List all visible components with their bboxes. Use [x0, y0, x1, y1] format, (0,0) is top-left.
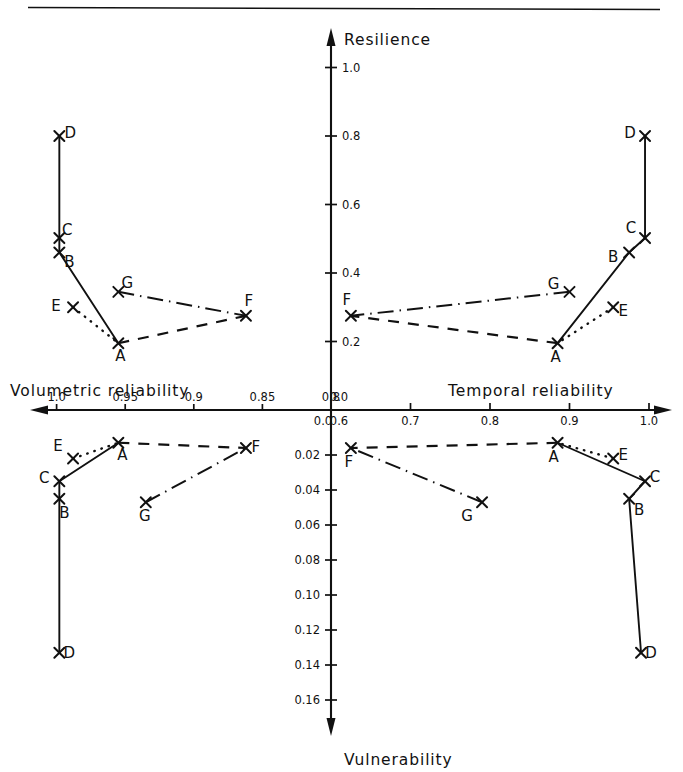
- series-dashed-upper-left: [118, 316, 246, 343]
- point-label-lower-right-D: D: [645, 644, 657, 662]
- series-dashdot-lower-right: [351, 448, 482, 502]
- labels-layer: ResilienceVulnerabilityVolumetric reliab…: [10, 31, 660, 769]
- series-dotted-lower-left: [73, 443, 118, 459]
- point-label-lower-right-C: C: [650, 468, 660, 486]
- y-axis-up-arrow-icon: [327, 28, 336, 46]
- y-ticklabel-resilience-0.4: 0.4: [342, 266, 360, 280]
- point-label-upper-right-E: E: [618, 302, 627, 320]
- datapoint-upper-right-B: [624, 247, 634, 257]
- point-label-lower-left-G: G: [139, 507, 151, 525]
- y-axis-down-arrow-icon: [327, 718, 336, 736]
- top-rule: [28, 8, 660, 10]
- point-label-upper-right-D: D: [624, 124, 636, 142]
- series-dotted-upper-left: [73, 307, 118, 343]
- point-label-upper-right-A: A: [550, 348, 561, 366]
- point-label-upper-left-G: G: [122, 274, 134, 292]
- y-ticklabel-resilience-1.0: 1.0: [342, 61, 360, 75]
- point-label-upper-left-A: A: [115, 347, 126, 365]
- series-dotted-lower-right: [558, 443, 614, 459]
- point-label-upper-right-B: B: [608, 248, 618, 266]
- series-solid-lower-left: [59, 443, 118, 653]
- point-label-upper-right-C: C: [626, 219, 636, 237]
- point-label-upper-right-G: G: [548, 275, 560, 293]
- x-ticklabel-right-0.7: 0.7: [401, 414, 419, 428]
- y-ticklabel-resilience-0.2: 0.2: [342, 335, 360, 349]
- x-ticklabel-right-origin-zero: 0.0: [330, 390, 348, 404]
- y-ticklabel-vulnerability-0.04: 0.04: [294, 483, 320, 497]
- temporal-reliability-axis-title: Temporal reliability: [447, 382, 614, 400]
- y-ticklabel-vulnerability-0.14: 0.14: [294, 658, 320, 672]
- point-label-upper-left-E: E: [51, 297, 60, 315]
- y-ticklabel-resilience-0.8: 0.8: [342, 129, 360, 143]
- datapoint-upper-left-E: [68, 302, 78, 312]
- series-solid-upper-right: [558, 136, 645, 343]
- x-ticklabel-right-0.6: 0.6: [330, 414, 348, 428]
- x-ticklabel-left-0.95: 0.95: [112, 390, 138, 404]
- x-ticklabel-right-1.0: 1.0: [640, 414, 658, 428]
- point-label-upper-left-F: F: [245, 292, 254, 310]
- y-ticklabel-vulnerability-0.06: 0.06: [294, 518, 320, 532]
- series-dashed-lower-left: [118, 443, 246, 448]
- series-dashdot-lower-left: [146, 448, 246, 502]
- point-label-upper-right-F: F: [343, 291, 352, 309]
- point-label-upper-left-C: C: [62, 221, 72, 239]
- x-ticklabel-right-0.8: 0.8: [481, 414, 499, 428]
- series-dotted-upper-right: [558, 307, 614, 343]
- datapoint-upper-right-E: [608, 302, 618, 312]
- y-ticklabel-vulnerability-0.12: 0.12: [294, 623, 320, 637]
- series-solid-lower-right: [558, 443, 645, 653]
- point-label-lower-left-D: D: [64, 644, 76, 662]
- datapoint-lower-right-C: [640, 476, 650, 486]
- point-label-lower-left-E: E: [53, 437, 62, 455]
- series-dashdot-upper-right: [351, 292, 570, 316]
- series-dashed-upper-right: [351, 316, 558, 343]
- point-label-lower-left-C: C: [39, 469, 49, 487]
- point-label-lower-right-A: A: [548, 448, 559, 466]
- volumetric-reliability-axis-title: Volumetric reliability: [10, 382, 189, 400]
- datapoint-lower-left-E: [68, 454, 78, 464]
- y-ticklabel-vulnerability-0.10: 0.10: [294, 588, 320, 602]
- series-dashed-lower-right: [351, 443, 558, 448]
- x-ticklabel-left-1.0: 1.0: [47, 390, 65, 404]
- resilience-axis-title: Resilience: [344, 31, 431, 49]
- point-label-lower-left-A: A: [117, 446, 128, 464]
- datapoint-lower-right-E: [608, 454, 618, 464]
- y-ticklabel-vulnerability-0.02: 0.02: [294, 448, 320, 462]
- y-ticklabel-vulnerability-0.08: 0.08: [294, 553, 320, 567]
- point-label-lower-right-G: G: [461, 507, 473, 525]
- figure-container: ResilienceVulnerabilityVolumetric reliab…: [0, 0, 683, 772]
- four-quadrant-scatter-plot: ResilienceVulnerabilityVolumetric reliab…: [0, 0, 683, 772]
- datapoint-lower-right-G: [477, 497, 487, 507]
- x-ticklabel-left-0.85: 0.85: [250, 390, 276, 404]
- datapoint-lower-left-G: [141, 497, 151, 507]
- point-label-lower-right-E: E: [618, 446, 627, 464]
- series-dashdot-upper-left: [118, 292, 246, 316]
- vulnerability-axis-title: Vulnerability: [344, 751, 453, 769]
- point-label-lower-right-B: B: [634, 501, 644, 519]
- point-label-lower-left-B: B: [59, 504, 69, 522]
- y-ticklabel-resilience-0.6: 0.6: [342, 198, 360, 212]
- y-ticklabel-vulnerability-0.16: 0.16: [294, 693, 320, 707]
- point-label-upper-left-B: B: [64, 253, 74, 271]
- x-ticklabel-right-0.9: 0.9: [560, 414, 578, 428]
- point-label-lower-right-F: F: [345, 453, 354, 471]
- point-label-upper-left-D: D: [65, 124, 77, 142]
- point-label-lower-left-F: F: [252, 438, 261, 456]
- x-ticklabel-left-0.9: 0.9: [185, 390, 203, 404]
- x-axis-left-arrow-icon: [30, 406, 48, 415]
